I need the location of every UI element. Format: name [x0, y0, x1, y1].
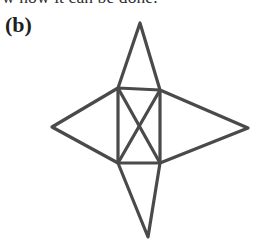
star-outline [52, 23, 248, 237]
star-polygon-figure [0, 0, 256, 247]
figure-line-group [52, 23, 248, 237]
figure-page: w how it can be done. (b) [0, 0, 256, 247]
